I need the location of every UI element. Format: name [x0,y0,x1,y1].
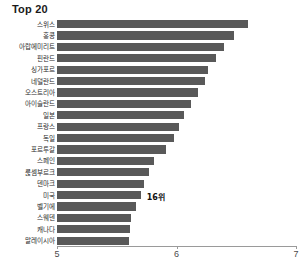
bar [57,77,205,85]
bar [57,88,198,96]
bar-annotation: 16위 [147,190,165,201]
category-label: 미국 [43,192,55,199]
bar [57,100,191,108]
chart-title: Top 20 [12,3,48,15]
chart-row: 룭셈부르크 [0,167,304,178]
chart-row: 아이슬란드 [0,99,304,110]
chart-row: 벨기에 [0,201,304,212]
category-label: 아이슬란드 [25,101,55,108]
category-label: 핀란드 [37,55,55,62]
bar [57,168,149,176]
bar-chart: Top 20 스위스홍콩아랍에미리트핀란드싱가포르네덜란드오스트리아아이슬란드일… [0,0,304,262]
bar [57,191,141,199]
category-label: 룭셈부르크 [25,169,55,176]
chart-row: 스페인 [0,156,304,167]
chart-row: 오스트리아 [0,87,304,98]
chart-row: 일본 [0,110,304,121]
chart-row: 싱가포르 [0,65,304,76]
plot-area: 스위스홍콩아랍에미리트핀란드싱가포르네덜란드오스트리아아이슬란드일본프랑스독일포… [0,18,304,246]
category-label: 벨기에 [37,204,55,211]
chart-row: 프랑스 [0,122,304,133]
chart-row: 네덜란드 [0,76,304,87]
chart-row: 독일 [0,133,304,144]
category-label: 네덜란드 [31,78,55,85]
chart-row: 핀란드 [0,53,304,64]
category-label: 오스트리아 [25,90,55,97]
chart-row: 포르투갈 [0,144,304,155]
category-label: 캐나다 [37,226,55,233]
bar [57,214,131,222]
bar [57,134,174,142]
bar [57,123,179,131]
category-label: 스웨덴 [37,215,55,222]
category-label: 싱가포르 [31,67,55,74]
x-tick-label: 6 [174,249,179,259]
category-label: 말레이시아 [25,238,55,245]
category-label: 프랑스 [37,124,55,131]
category-label: 스위스 [37,21,55,28]
category-label: 포르투갈 [31,147,55,154]
bar [57,20,248,28]
category-label: 홍콩 [43,33,55,40]
chart-row: 미국16위 [0,190,304,201]
category-label: 덴마크 [37,181,55,188]
chart-row: 스위스 [0,19,304,30]
category-label: 일본 [43,112,55,119]
x-tick-label: 5 [54,249,59,259]
category-label: 아랍에미리트 [19,44,55,51]
chart-row: 스웨덴 [0,213,304,224]
bar [57,31,234,39]
bar [57,54,216,62]
bar [57,225,130,233]
chart-row: 덴마크 [0,179,304,190]
bar [57,237,129,245]
chart-row: 아랍에미리트 [0,42,304,53]
chart-row: 캐나다 [0,224,304,235]
bar [57,202,136,210]
bar [57,157,154,165]
chart-row: 홍콩 [0,30,304,41]
bar [57,66,208,74]
bar [57,145,166,153]
bar [57,111,184,119]
bar [57,180,144,188]
category-label: 스페인 [37,158,55,165]
x-tick-label: 7 [293,249,298,259]
category-label: 독일 [43,135,55,142]
bar [57,43,224,51]
